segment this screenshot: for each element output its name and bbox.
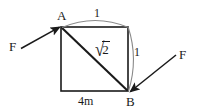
diagonal-length-label: √2: [95, 40, 110, 60]
force-arrow-left: [21, 27, 60, 48]
vertex-label-a: A: [57, 9, 66, 22]
geometry-figure: A B F F 1 1 √2 4m: [0, 0, 199, 112]
force-label-left: F: [9, 40, 16, 53]
vertex-label-b: B: [126, 95, 135, 108]
radical-sign-icon: √: [95, 39, 104, 62]
right-arc: [128, 28, 133, 91]
base-length-label: 4m: [78, 95, 93, 107]
right-arc-length-label: 1: [134, 46, 140, 58]
force-label-right: F: [179, 48, 186, 61]
top-arc-length-label: 1: [94, 7, 100, 19]
force-arrow-right: [131, 55, 177, 92]
